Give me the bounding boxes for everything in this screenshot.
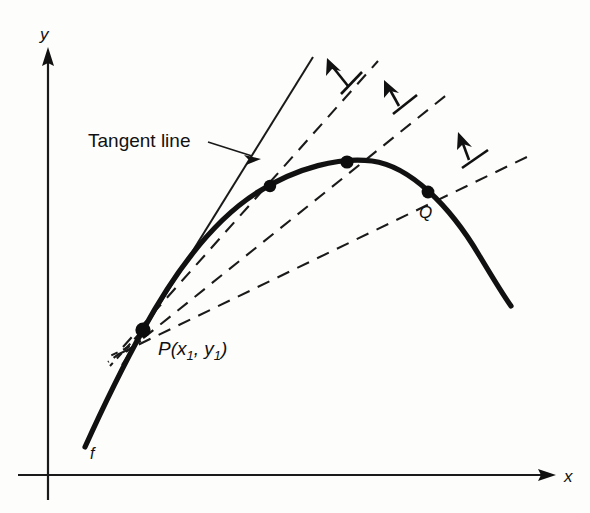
rotation-arrow-2-cross [393, 95, 417, 114]
axes-group: x y [18, 25, 573, 500]
point-p-label-sub1: 1 [187, 348, 194, 363]
rotation-arrow-2 [384, 80, 417, 114]
point-p-label-sub2: 1 [214, 348, 221, 363]
point-q-label: Q [419, 203, 432, 222]
point-q-marker [422, 186, 435, 199]
secant-point-2 [340, 155, 353, 168]
secant-lines-group [106, 61, 531, 366]
tangent-line-leader [208, 142, 252, 156]
point-p-marker [135, 322, 150, 337]
tangent-line-callout: Tangent line [88, 130, 261, 165]
point-p-label-main: P(x [158, 338, 188, 359]
x-axis-label: x [563, 467, 573, 486]
secant-point-1 [264, 180, 276, 192]
point-p-label-comma: , y [194, 338, 216, 359]
point-p-label-close: ) [219, 338, 227, 359]
math-diagram-svg: x y [0, 0, 590, 513]
rotation-arrow-2-head [384, 80, 399, 98]
y-axis-label: y [39, 25, 50, 44]
figure-container: x y [0, 0, 590, 513]
rotation-arrow-3 [457, 132, 488, 168]
function-curve-f [85, 160, 511, 447]
rotation-arrow-1 [326, 58, 362, 94]
function-curve-group [85, 160, 511, 447]
point-p-label: P(x1, y1) [158, 338, 227, 363]
secant-line-1 [123, 61, 378, 347]
rotation-arrows-group [326, 58, 488, 168]
curve-points-group [135, 155, 434, 337]
curve-f-label: f [90, 445, 96, 462]
secant-line-3 [119, 155, 531, 354]
tangent-line-label: Tangent line [88, 130, 190, 151]
